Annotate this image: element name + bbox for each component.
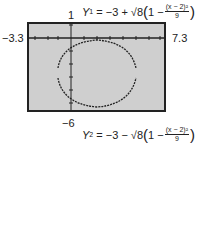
y2-lhs: Y [82,129,89,141]
y2-paren-right: ) [190,129,195,141]
ymin-label: −6 [62,117,75,129]
y2-one: 1 − [148,129,164,141]
y2-mid: = −3 − √8 [96,129,143,141]
y2-sub: 2 [89,129,93,141]
y2-fraction: (x − 2)²9 [165,126,189,143]
y2-equation: Y2 = −3 − √8(1 −(x − 2)²9) [82,126,195,143]
y2-numerator: (x − 2)² [165,126,189,135]
y2-denominator: 9 [175,135,179,143]
